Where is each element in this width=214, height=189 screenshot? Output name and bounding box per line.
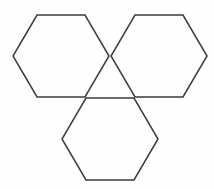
hexagon-diagram: Three overlapping hexagons Line drawing … [0, 0, 214, 189]
figure-background [0, 0, 214, 189]
figure-container: Three overlapping hexagons Line drawing … [0, 0, 214, 189]
